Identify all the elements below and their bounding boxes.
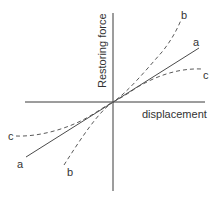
y-axis-label: Restoring force xyxy=(96,13,108,88)
curve-b-line xyxy=(64,20,181,165)
force-displacement-diagram: b a c c a b displacement Restoring force xyxy=(0,0,216,202)
diagram-canvas: b a c c a b displacement Restoring force xyxy=(0,0,216,202)
curve-b-label-top: b xyxy=(181,9,187,21)
x-axis-label: displacement xyxy=(142,108,207,120)
curve-b-label-bottom: b xyxy=(67,166,73,178)
curve-c-label-top: c xyxy=(203,69,209,81)
curve-a-label-bottom: a xyxy=(17,158,24,170)
curve-c-label-bottom: c xyxy=(8,130,14,142)
curve-a-label-top: a xyxy=(193,36,200,48)
